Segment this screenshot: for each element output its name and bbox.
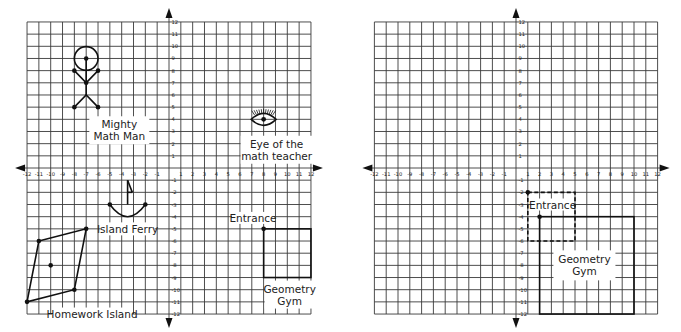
y-tick-label: -6 [519, 238, 524, 244]
x-tick-label: -2 [143, 171, 148, 177]
x-tick-label: 9 [274, 171, 277, 177]
y-tick-label: -11 [519, 299, 527, 305]
y-tick-label: -1 [172, 177, 177, 183]
entrance-label: Entrance [229, 212, 276, 224]
y-tick-label: 12 [172, 19, 179, 25]
eyelash [256, 110, 258, 115]
x-tick-label: 5 [573, 171, 576, 177]
y-tick-label: 9 [519, 55, 522, 61]
right-figures: EntranceGeometryGym [526, 190, 635, 314]
x-tick-label: 1 [526, 171, 529, 177]
entrance-dot [537, 214, 542, 219]
y-tick-label: 2 [172, 141, 175, 147]
x-tick-label: 5 [226, 171, 229, 177]
x-tick-label: 10 [284, 171, 291, 177]
x-tick-label: 11 [296, 171, 303, 177]
arrow-up-icon [513, 8, 520, 18]
x-tick-label: -1 [502, 171, 507, 177]
x-tick-label: 2 [191, 171, 194, 177]
x-tick-label: 6 [585, 171, 588, 177]
eyelash [269, 110, 271, 115]
y-tick-label: -12 [519, 311, 527, 317]
point-dot [84, 81, 89, 86]
y-tick-label: 11 [519, 31, 526, 37]
original-entrance-dot [526, 190, 531, 195]
y-tick-label: 9 [172, 55, 175, 61]
point-dot [108, 202, 113, 207]
point-dot [96, 105, 101, 110]
x-tick-label: 4 [562, 171, 566, 177]
x-tick-label: 8 [609, 171, 612, 177]
point-dot [72, 287, 77, 292]
ferry-hull [110, 205, 145, 217]
y-tick-label: -8 [519, 262, 524, 268]
arrow-right-icon [660, 165, 670, 172]
y-tick-label: 12 [519, 19, 526, 25]
x-tick-label: -1 [155, 171, 160, 177]
homework-island-label: Homework Island [47, 308, 138, 320]
y-tick-label: -4 [172, 214, 178, 220]
y-tick-label: -6 [172, 238, 177, 244]
y-tick-label: 6 [172, 92, 175, 98]
eye-pupil [261, 117, 266, 122]
arrow-right-icon [313, 165, 323, 172]
geometry-gym-label: Gym [572, 265, 597, 277]
geometry-gym-label: Geometry [558, 253, 610, 265]
x-tick-label: -4 [466, 171, 472, 177]
x-tick-label: 12 [654, 171, 661, 177]
y-tick-label: -3 [519, 202, 524, 208]
x-tick-label: -12 [23, 171, 31, 177]
mighty-math-man-label: Math Man [93, 130, 145, 142]
y-tick-label: -2 [519, 189, 524, 195]
y-tick-label: -10 [172, 287, 180, 293]
eye-label: Eye of the [250, 138, 303, 150]
y-tick-label: -3 [172, 202, 177, 208]
x-tick-label: 3 [550, 171, 553, 177]
eye-label: math teacher [241, 150, 313, 162]
right-coordinate-plane: -12-11-10-9-8-7-6-5-4-3-2-11234567891011… [362, 8, 669, 328]
y-tick-label: 11 [172, 31, 179, 37]
y-tick-label: -7 [172, 250, 177, 256]
y-tick-label: -9 [172, 275, 177, 281]
x-tick-label: 1 [179, 171, 182, 177]
point-dot [72, 68, 77, 73]
x-tick-label: -10 [46, 171, 54, 177]
y-tick-label: -11 [172, 299, 180, 305]
point-dot [143, 202, 148, 207]
point-dot [37, 239, 42, 244]
y-tick-label: -5 [519, 226, 524, 232]
x-tick-label: -11 [35, 171, 43, 177]
y-tick-label: 1 [519, 153, 522, 159]
x-tick-label: -8 [72, 171, 77, 177]
y-tick-label: 8 [519, 68, 522, 74]
left-figures: MightyMath ManEye of themath teacherIsla… [25, 47, 316, 321]
y-tick-label: 8 [172, 68, 175, 74]
entrance-dot [261, 227, 266, 232]
y-tick-label: -12 [172, 311, 180, 317]
y-tick-label: 1 [172, 153, 175, 159]
x-tick-label: -4 [119, 171, 125, 177]
y-tick-label: 2 [519, 141, 522, 147]
y-tick-label: 6 [519, 92, 522, 98]
y-tick-label: 7 [519, 80, 522, 86]
point-dot [25, 300, 30, 305]
x-tick-label: 10 [631, 171, 638, 177]
x-tick-label: 2 [538, 171, 541, 177]
x-tick-label: -11 [382, 171, 390, 177]
geometry-gym-label: Geometry [263, 283, 315, 295]
y-tick-label: -4 [519, 214, 525, 220]
right-grid [362, 8, 669, 328]
x-tick-label: 12 [308, 171, 315, 177]
x-tick-label: 9 [621, 171, 624, 177]
y-tick-label: -7 [519, 250, 524, 256]
geometry-gym-label: Gym [277, 295, 302, 307]
x-tick-label: 11 [642, 171, 649, 177]
x-tick-label: 7 [250, 171, 253, 177]
entrance-label: Entrance [529, 199, 576, 211]
point-dot [72, 105, 77, 110]
y-tick-label: -1 [519, 177, 524, 183]
point-dot [84, 56, 89, 61]
y-tick-label: 3 [519, 128, 522, 134]
mighty-math-man-label: Mighty [101, 118, 137, 130]
y-tick-label: -5 [172, 226, 177, 232]
